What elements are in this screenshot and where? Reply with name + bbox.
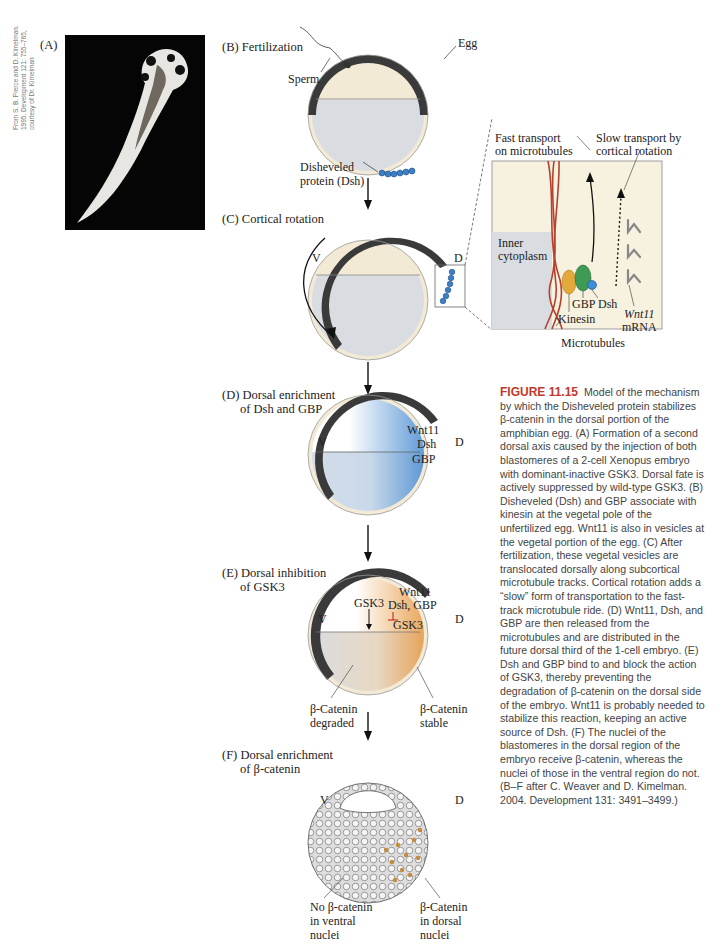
wnt11-mrna-label-2: mRNA — [622, 320, 657, 334]
dorsal-label-c: D — [454, 251, 463, 265]
dsh-label-inset: Dsh — [598, 297, 617, 311]
kinesin-label: Kinesin — [558, 312, 595, 326]
panel-e-label-2: of GSK3 — [240, 580, 285, 595]
fast-transport-1: Fast transport — [495, 131, 561, 145]
wnt11-label-e: Wnt11 — [399, 585, 431, 599]
slow-transport-2: cortical rotation — [596, 144, 672, 158]
yes-catenin-2: in dorsal — [420, 914, 462, 928]
panel-c-label: (C) Cortical rotation — [222, 212, 324, 227]
caption-text: Model of the mechanism by which the Dish… — [500, 386, 705, 806]
wnt11-label-d: Wnt11 — [407, 423, 439, 437]
figure-number: FIGURE 11.15 — [500, 385, 578, 399]
inner-cytoplasm-1: Inner — [498, 236, 523, 250]
gbp-label-inset: GBP — [572, 297, 595, 311]
gsk3-label-left: GSK3 — [354, 596, 384, 610]
gsk3-label-right: GSK3 — [393, 618, 423, 632]
catenin-stable-1: β-Catenin — [420, 702, 467, 716]
panel-d-label-1: (D) Dorsal enrichment — [222, 388, 335, 403]
no-catenin-2: in ventral — [310, 914, 356, 928]
ventral-label-d: V — [318, 435, 327, 449]
inner-cytoplasm-2: cytoplasm — [498, 249, 547, 263]
yes-catenin-1: β-Catenin — [420, 900, 467, 914]
yes-catenin-3: nuclei — [420, 928, 449, 942]
figure-caption: FIGURE 11.15Model of the mechanism by wh… — [500, 386, 705, 807]
catenin-degraded-1: β-Catenin — [310, 702, 357, 716]
catenin-degraded-2: degraded — [310, 716, 354, 730]
dsh-label-2: protein (Dsh) — [300, 174, 364, 188]
panel-b-label: (B) Fertilization — [222, 40, 303, 55]
dsh-gbp-label-e: Dsh, GBP — [388, 598, 437, 612]
gbp-label-d: GBP — [412, 452, 435, 466]
catenin-stable-2: stable — [420, 716, 448, 730]
fast-transport-2: on microtubules — [495, 144, 573, 158]
panel-d-label-2: of Dsh and GBP — [240, 402, 322, 417]
egg-label: Egg — [458, 36, 477, 50]
wnt11-mrna-label-1: Wnt11 — [624, 307, 654, 321]
ventral-label-e: V — [318, 612, 327, 626]
panel-e-label-1: (E) Dorsal inhibition — [222, 566, 326, 581]
dorsal-label-e: D — [455, 612, 464, 626]
panel-f-label-1: (F) Dorsal enrichment — [222, 748, 333, 763]
slow-transport-1: Slow transport by — [596, 131, 681, 145]
egg-fertilization — [300, 27, 456, 180]
ventral-label-c: V — [312, 251, 321, 265]
panel-f-label-2: of β-catenin — [240, 762, 300, 777]
ventral-label-f: V — [320, 793, 329, 807]
no-catenin-1: No β-catenin — [310, 900, 372, 914]
dsh-label-d: Dsh — [417, 437, 436, 451]
no-catenin-3: nuclei — [310, 928, 339, 942]
dsh-label-1: Disheveled — [300, 160, 354, 174]
dorsal-label-f: D — [455, 793, 464, 807]
sperm-label: Sperm — [288, 72, 319, 86]
microtubules-label: Microtubules — [561, 336, 625, 350]
dorsal-label-d: D — [455, 435, 464, 449]
